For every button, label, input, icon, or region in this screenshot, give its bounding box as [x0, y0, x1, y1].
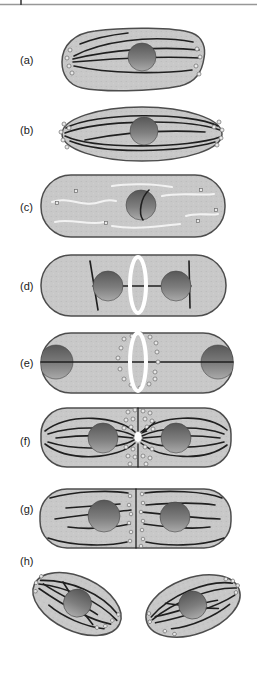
panel-d-label: (d) — [20, 280, 33, 292]
panel-c: (c) — [20, 175, 225, 237]
daughter-cell-right — [137, 562, 250, 649]
daughter-cell-left — [22, 559, 131, 648]
panel-f-label: (f) — [20, 435, 30, 447]
nucleus — [128, 43, 156, 71]
figure-page: (a) (b) — [0, 0, 257, 679]
panel-c-label: (c) — [20, 201, 33, 213]
nucleus-right — [161, 271, 191, 301]
nucleus-right — [161, 423, 191, 453]
cell-division-figure: (a) (b) — [0, 0, 257, 679]
cell-plate-initiation-site — [135, 432, 142, 442]
panel-a: (a) — [20, 28, 205, 91]
panel-g: (g) — [20, 489, 231, 548]
panel-e-label: (e) — [20, 357, 33, 369]
panel-g-label: (g) — [20, 503, 33, 515]
nucleus — [130, 117, 158, 145]
panel-e: (e) — [20, 332, 235, 393]
nucleus-left — [88, 423, 118, 453]
panel-d: (d) — [20, 255, 226, 316]
panel-h: (h) — [20, 555, 250, 649]
panel-f: (f) — [20, 408, 231, 467]
nucleus-right — [160, 502, 190, 532]
panel-h-label: (h) — [20, 555, 33, 567]
page-border-rule — [0, 0, 257, 5]
panel-b: (b) — [20, 107, 224, 161]
nucleus-left — [88, 500, 120, 532]
panel-a-label: (a) — [20, 54, 33, 66]
nucleus-left — [93, 271, 123, 301]
panel-b-label: (b) — [20, 124, 33, 136]
